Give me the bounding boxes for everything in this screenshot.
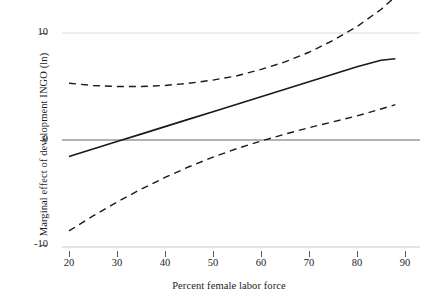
x-tick-label-50: 50 [193,258,233,269]
marginal-effect-chart: Marginal effect of development INGO (ln)… [0,0,432,303]
x-axis-title: Percent female labor force [62,280,396,291]
marginal-effect-curve [69,59,395,157]
x-tick-label-60: 60 [241,258,281,269]
x-tick-label-80: 80 [337,258,377,269]
y-tick-mark-0 [40,140,47,141]
x-tick-label-30: 30 [97,258,137,269]
y-tick-mark-10 [40,33,47,34]
x-tick-label-90: 90 [385,258,425,269]
x-tick-label-20: 20 [49,258,89,269]
upper-confidence-curve [69,0,395,86]
x-tick-label-40: 40 [145,258,185,269]
y-axis-title: Marginal effect of development INGO (ln) [38,30,49,260]
reference-lines [62,33,420,247]
y-tick-mark-neg10 [40,245,47,246]
x-tick-label-70: 70 [289,258,329,269]
data-series [69,0,395,231]
lower-confidence-curve [69,105,395,231]
